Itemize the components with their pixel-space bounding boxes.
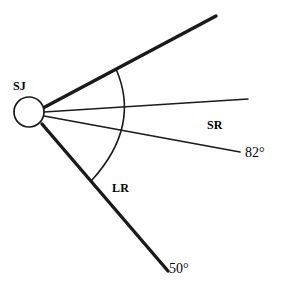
angle-diagram-svg	[0, 0, 283, 298]
label-sr: SR	[207, 119, 223, 131]
label-sj: SJ	[13, 80, 26, 92]
label-lr: LR	[112, 182, 129, 194]
sj-joint-circle	[14, 97, 44, 127]
diagram-canvas: SJ SR LR 82° 50°	[0, 0, 283, 298]
diagram-background	[0, 0, 283, 298]
label-angle-82: 82°	[245, 146, 265, 160]
label-angle-50: 50°	[169, 262, 189, 276]
